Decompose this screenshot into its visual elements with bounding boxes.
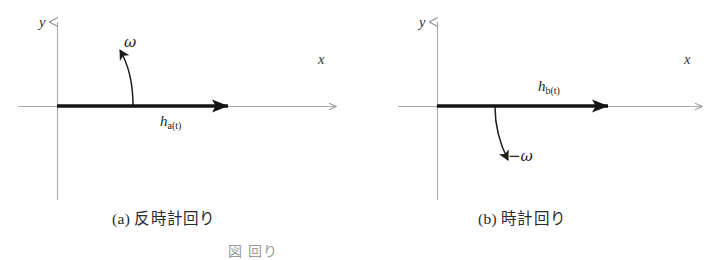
panel-a-omega-label: ω [124, 33, 136, 51]
panel-b-omega-label: −ω [508, 147, 533, 165]
panel-b-vector-label-base: h [538, 78, 546, 94]
panel-b-graphics [398, 22, 702, 200]
panel-a-x-axis-label: x [318, 51, 324, 68]
panel-a-y-axis-label: y [39, 14, 45, 31]
panel-b-x-axis-label: x [684, 51, 690, 68]
panel-b-vector-label: hb(t) [538, 78, 560, 96]
panel-a-caption: (a) 反時計回り [112, 206, 216, 228]
panel-a-rotation-arc [120, 50, 133, 105]
panel-b-vector-label-sub: b(t) [546, 85, 560, 96]
figure-caption: 図 回り [228, 240, 278, 260]
panel-b-rotation-arc [495, 107, 508, 160]
panel-a-vector-label-sub: a(t) [168, 120, 182, 131]
panel-a-vector-label-base: h [160, 113, 168, 129]
panel-b-caption: (b) 時計回り [478, 206, 566, 228]
panel-b-y-axis-label: y [419, 14, 425, 31]
panel-a-vector-label: ha(t) [160, 113, 181, 131]
panel-a-graphics [18, 22, 336, 200]
